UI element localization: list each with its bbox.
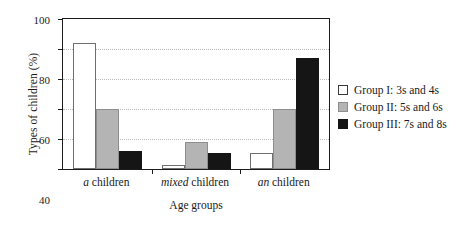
- y-axis-tick: 100: [58, 19, 63, 20]
- bar: [185, 142, 208, 169]
- y-axis-tick: 40: [58, 109, 63, 110]
- bar-chart-figure: Types of children (%) 020406080100 Age g…: [0, 0, 460, 235]
- x-label-italic-word: mixed: [161, 176, 188, 188]
- gridline: [63, 79, 329, 80]
- plot-area: 020406080100: [62, 18, 330, 170]
- y-axis-tick: 80: [58, 49, 63, 50]
- x-axis-group-label: an children: [258, 176, 310, 188]
- y-axis-tick-label: 80: [39, 74, 50, 86]
- bar: [296, 58, 319, 169]
- x-axis-title: Age groups: [169, 199, 222, 211]
- legend-item: Group III: 7s and 8s: [338, 116, 447, 132]
- x-label-italic-word: a: [83, 176, 89, 188]
- legend-item-label: Group I: 3s and 4s: [354, 84, 439, 96]
- bar: [162, 165, 185, 170]
- x-axis-group-label: mixed children: [161, 176, 229, 188]
- gridline: [63, 49, 329, 50]
- y-axis-tick: 0: [58, 169, 63, 170]
- y-axis-tick-label: 40: [39, 194, 50, 206]
- y-axis-tick-label: 60: [39, 134, 50, 146]
- x-axis-tick: [240, 169, 241, 174]
- x-axis-tick: [152, 169, 153, 174]
- x-axis-group-label: a children: [83, 176, 129, 188]
- legend-item-label: Group II: 5s and 6s: [354, 101, 443, 113]
- y-axis-tick: 60: [58, 79, 63, 80]
- y-axis-tick-label: 100: [34, 14, 51, 26]
- legend-item-label: Group III: 7s and 8s: [354, 118, 447, 130]
- legend-item: Group II: 5s and 6s: [338, 99, 447, 115]
- bar: [119, 151, 142, 169]
- legend-item: Group I: 3s and 4s: [338, 82, 447, 98]
- chart-legend: Group I: 3s and 4sGroup II: 5s and 6sGro…: [338, 82, 447, 133]
- bar: [208, 153, 231, 170]
- bar: [73, 43, 96, 169]
- legend-swatch-icon: [338, 119, 348, 129]
- legend-swatch-icon: [338, 85, 348, 95]
- legend-swatch-icon: [338, 102, 348, 112]
- y-axis-tick: 20: [58, 139, 63, 140]
- bar: [250, 153, 273, 170]
- x-label-italic-word: an: [258, 176, 270, 188]
- bar: [96, 109, 119, 169]
- y-axis-title: Types of children (%): [27, 19, 39, 189]
- bar: [273, 109, 296, 169]
- plot-inner: [63, 19, 329, 169]
